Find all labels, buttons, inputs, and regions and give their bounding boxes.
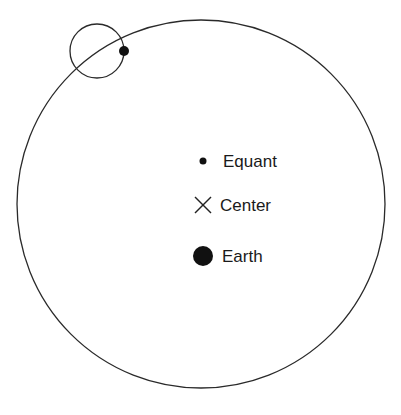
planet-dot xyxy=(119,46,129,56)
equant-dot xyxy=(200,158,207,165)
center-x-icon xyxy=(195,197,211,213)
epicycle-circle xyxy=(70,24,124,78)
earth-dot xyxy=(193,246,213,266)
deferent-circle xyxy=(17,20,385,388)
earth-label: Earth xyxy=(222,247,263,266)
ptolemaic-diagram: Equant Center Earth xyxy=(0,0,401,415)
center-label: Center xyxy=(220,196,271,215)
equant-label: Equant xyxy=(223,152,277,171)
